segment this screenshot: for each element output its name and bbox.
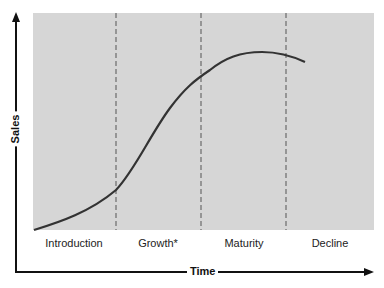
stage-label-introduction: Introduction (32, 237, 116, 249)
x-axis-arrow-icon (364, 268, 374, 276)
y-axis-arrow-icon (12, 12, 20, 22)
product-life-cycle-diagram: Introduction Growth* Maturity Decline Ti… (0, 0, 384, 288)
stage-label-decline: Decline (288, 237, 372, 249)
x-axis-title: Time (187, 265, 218, 277)
stage-label-growth: Growth* (116, 237, 200, 249)
plot-background (33, 13, 374, 230)
stage-label-maturity: Maturity (202, 237, 286, 249)
y-axis-title: Sales (9, 112, 21, 147)
